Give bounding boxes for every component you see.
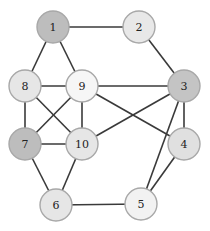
node-label: 8 (22, 80, 29, 93)
node-label: 6 (53, 199, 60, 212)
node-6: 6 (40, 189, 72, 221)
node-2: 2 (123, 11, 155, 43)
node-9: 9 (66, 70, 98, 102)
node-label: 10 (75, 138, 89, 151)
node-3: 3 (168, 70, 200, 102)
node-label: 2 (136, 21, 143, 34)
node-10: 10 (66, 128, 98, 160)
node-label: 9 (79, 80, 86, 93)
nodes-layer: 12345678910 (9, 11, 200, 221)
node-label: 7 (22, 138, 29, 151)
node-7: 7 (9, 128, 41, 160)
node-1: 1 (37, 11, 69, 43)
node-label: 3 (181, 80, 188, 93)
edges-layer (25, 27, 184, 205)
node-label: 1 (50, 21, 57, 34)
node-8: 8 (9, 70, 41, 102)
node-label: 4 (181, 138, 188, 151)
node-label: 5 (138, 198, 145, 211)
node-5: 5 (125, 188, 157, 220)
node-4: 4 (168, 128, 200, 160)
graph-diagram: 12345678910 (0, 0, 210, 231)
